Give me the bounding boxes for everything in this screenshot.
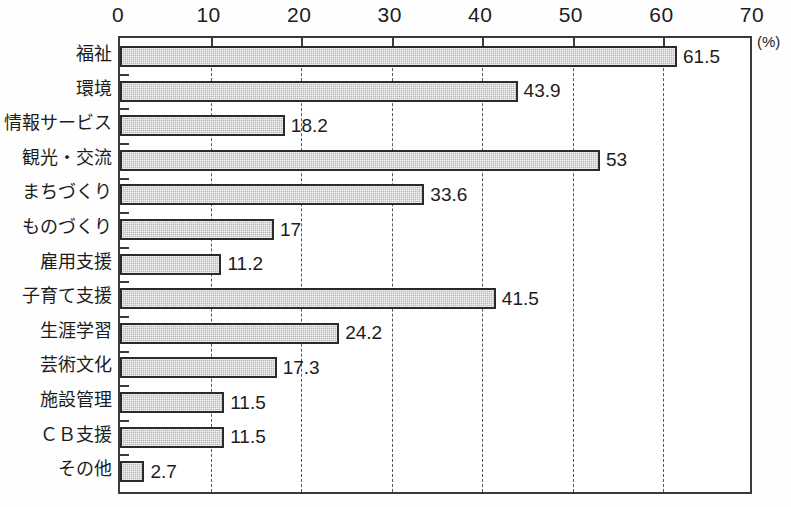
y-axis-category-label: その他 (58, 459, 112, 480)
x-axis-tick-label: 50 (559, 2, 583, 28)
y-axis-category-label: 芸術文化 (40, 355, 112, 376)
bar-value-label: 11.5 (230, 392, 266, 414)
y-axis-tick-mark (120, 178, 129, 180)
bar[interactable] (120, 150, 600, 171)
bar-value-label: 2.7 (150, 461, 176, 483)
bar-value-label: 33.6 (430, 184, 467, 206)
bar[interactable] (120, 46, 677, 67)
y-axis-tick-mark (120, 385, 129, 387)
bar-row: 18.2 (120, 115, 750, 136)
y-axis-category-label: 子育て支援 (22, 286, 112, 307)
bar[interactable] (120, 219, 274, 240)
bar-value-label: 43.9 (524, 80, 561, 102)
bar[interactable] (120, 427, 224, 448)
bar-value-label: 41.5 (502, 288, 539, 310)
x-axis-tick-label: 40 (468, 2, 492, 28)
bar[interactable] (120, 357, 277, 378)
unit-label: (%) (757, 33, 780, 51)
bar-value-label: 11.2 (227, 253, 263, 275)
x-axis-tick-label: 30 (378, 2, 402, 28)
bar[interactable] (120, 288, 496, 309)
y-axis-category-label: ものづくり (22, 217, 112, 238)
y-axis-category-label: 雇用支援 (40, 252, 112, 273)
x-axis-tick-label: 0 (112, 2, 124, 28)
y-axis-tick-mark (120, 420, 129, 422)
x-axis-tick-labels: 010203040506070 (0, 0, 791, 34)
bar[interactable] (120, 115, 285, 136)
y-axis-tick-mark (120, 143, 129, 145)
bar-row: 24.2 (120, 323, 750, 344)
bar-value-label: 18.2 (291, 115, 328, 137)
y-axis-category-label: 情報サービス (4, 113, 112, 134)
x-axis-tick-label: 10 (196, 2, 220, 28)
bar-row: 11.2 (120, 254, 750, 275)
bar-row: 33.6 (120, 184, 750, 205)
bar[interactable] (120, 254, 221, 275)
bar-row: 41.5 (120, 288, 750, 309)
y-axis-category-label: 環境 (76, 79, 112, 100)
bar-row: 11.5 (120, 427, 750, 448)
y-axis-category-label: 施設管理 (40, 390, 112, 411)
bar-row: 17 (120, 219, 750, 240)
y-axis-tick-mark (120, 281, 129, 283)
bar-row: 43.9 (120, 81, 750, 102)
bar-row: 53 (120, 150, 750, 171)
y-axis-category-label: まちづくり (22, 182, 112, 203)
y-axis-category-label: 観光・交流 (22, 148, 112, 169)
bar-chart: 010203040506070 (%) 61.543.918.25333.617… (0, 0, 791, 507)
y-axis-tick-mark (120, 74, 129, 76)
y-axis-tick-mark (120, 351, 129, 353)
y-axis-tick-mark (120, 316, 129, 318)
bar-row: 17.3 (120, 357, 750, 378)
bar-value-label: 11.5 (230, 426, 266, 448)
bar[interactable] (120, 323, 339, 344)
bar[interactable] (120, 461, 144, 482)
x-axis-tick-label: 20 (287, 2, 311, 28)
y-axis-category-label: 生涯学習 (40, 321, 112, 342)
bar-value-label: 17.3 (283, 357, 320, 379)
bar-row: 2.7 (120, 461, 750, 482)
y-axis-tick-mark (120, 454, 129, 456)
bar-value-label: 61.5 (683, 46, 720, 68)
bar-value-label: 17 (280, 219, 301, 241)
y-axis-category-labels: 福祉環境情報サービス観光・交流まちづくりものづくり雇用支援子育て支援生涯学習芸術… (0, 36, 112, 494)
bar-row: 61.5 (120, 46, 750, 67)
bar[interactable] (120, 81, 518, 102)
bar[interactable] (120, 392, 224, 413)
y-axis-category-label: ＣＢ支援 (40, 425, 112, 446)
bar-value-label: 24.2 (345, 322, 382, 344)
bar-row: 11.5 (120, 392, 750, 413)
x-axis-tick-label: 60 (649, 2, 673, 28)
y-axis-tick-mark (120, 247, 129, 249)
y-axis-tick-mark (120, 212, 129, 214)
y-axis-category-label: 福祉 (76, 44, 112, 65)
y-axis-tick-mark (120, 108, 129, 110)
bar-value-label: 53 (606, 149, 627, 171)
bar[interactable] (120, 184, 424, 205)
plot-area: 61.543.918.25333.61711.241.524.217.311.5… (118, 36, 752, 494)
x-axis-tick-label: 70 (740, 2, 764, 28)
